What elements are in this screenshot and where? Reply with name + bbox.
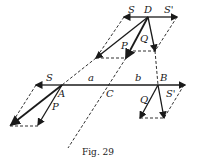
label-s-left: S	[46, 72, 53, 83]
label-s-prime-top: S'	[164, 4, 174, 15]
label-p-top: P	[120, 40, 128, 51]
label-b: b	[135, 72, 141, 83]
top-dash-right	[155, 17, 177, 51]
label-s-top: S	[128, 4, 135, 15]
label-d: D	[143, 4, 152, 15]
top-q-arrow	[148, 17, 155, 51]
right-resultant	[158, 85, 164, 118]
top-force-group	[96, 17, 177, 58]
top-dash-left	[96, 17, 124, 58]
label-q-top: Q	[140, 33, 148, 44]
label-q-right: Q	[140, 94, 148, 105]
label-b-point: B	[159, 72, 167, 83]
label-c-point: C	[106, 88, 114, 99]
label-a-point: A	[57, 88, 65, 99]
line-db	[155, 51, 158, 85]
label-a: a	[88, 72, 94, 83]
label-p-left: P	[51, 101, 59, 112]
label-s-prime-right: S'	[166, 88, 176, 99]
left-dash-side	[10, 85, 36, 126]
force-diagram: S D S' P Q S a b B A C S' P Q Fig. 29	[0, 0, 199, 168]
figure-caption: Fig. 29	[82, 147, 114, 157]
line-dc	[68, 58, 126, 148]
